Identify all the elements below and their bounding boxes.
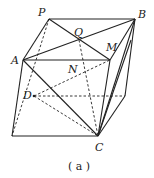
label-b: B <box>137 8 146 21</box>
hidden-edges <box>12 19 125 136</box>
label-n: N <box>67 63 78 76</box>
label-p: P <box>37 6 46 19</box>
geometry-diagram: P Q B A M N D C ( a ) <box>0 0 154 178</box>
figure-caption: ( a ) <box>68 160 90 173</box>
point-d-dot <box>33 95 36 98</box>
label-m: M <box>105 41 118 54</box>
label-q: Q <box>74 26 83 39</box>
label-d: D <box>22 89 32 102</box>
label-a: A <box>10 54 19 67</box>
label-c: C <box>95 141 104 154</box>
